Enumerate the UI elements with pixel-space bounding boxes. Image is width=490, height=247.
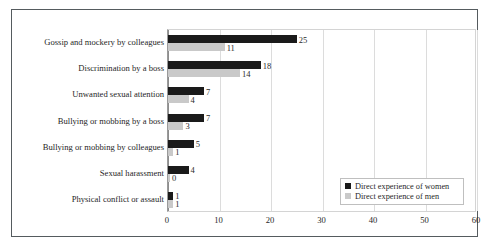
chart-legend: Direct experience of womenDirect experie… xyxy=(340,178,464,205)
x-tick-label: 30 xyxy=(317,215,326,225)
bar-value-label: 7 xyxy=(206,114,210,122)
bar xyxy=(168,43,225,51)
bar-value-label: 25 xyxy=(299,36,308,44)
bar xyxy=(168,148,173,156)
bar-value-label: 7 xyxy=(206,88,210,96)
x-tick-label: 10 xyxy=(214,215,223,225)
x-tick-label: 50 xyxy=(420,215,429,225)
bar-value-label: 5 xyxy=(196,140,200,148)
gridline xyxy=(220,30,221,211)
legend-label: Direct experience of men xyxy=(355,192,439,201)
gridline xyxy=(323,30,324,211)
x-tick-label: 20 xyxy=(266,215,275,225)
category-label: Physical conflict or assault xyxy=(16,194,164,204)
x-tick-label: 0 xyxy=(165,215,169,225)
bar xyxy=(168,87,204,95)
legend-swatch-icon xyxy=(345,183,351,189)
bar xyxy=(168,200,173,208)
bar xyxy=(168,35,297,43)
x-tick-label: 60 xyxy=(472,215,481,225)
legend-item[interactable]: Direct experience of men xyxy=(345,191,459,201)
x-axis-tick-labels: 0102030405060 xyxy=(167,215,476,231)
legend-label: Direct experience of women xyxy=(355,182,449,191)
bar xyxy=(168,69,240,77)
bar xyxy=(168,174,170,182)
bar xyxy=(168,192,173,200)
clipped-text-sliver xyxy=(0,0,490,4)
bar xyxy=(168,61,261,69)
bar-value-label: 4 xyxy=(191,166,195,174)
bar-value-label: 1 xyxy=(175,200,179,208)
bar xyxy=(168,122,183,130)
bar xyxy=(168,140,194,148)
bar-value-label: 1 xyxy=(175,148,179,156)
bar-value-label: 11 xyxy=(227,44,235,52)
bar-value-label: 18 xyxy=(263,62,272,70)
bar-value-label: 3 xyxy=(185,122,189,130)
gridline xyxy=(477,30,478,211)
category-label: Bullying or mobbing by a boss xyxy=(16,116,164,126)
category-label: Sexual harassment xyxy=(16,168,164,178)
bar-value-label: 4 xyxy=(191,96,195,104)
gridline xyxy=(271,30,272,211)
category-axis-labels: Gossip and mockery by colleaguesDiscrimi… xyxy=(14,29,164,212)
bar-value-label: 0 xyxy=(172,174,176,182)
category-label: Bullying or mobbing by colleagues xyxy=(16,142,164,152)
bar-value-label: 14 xyxy=(242,70,251,78)
category-label: Unwanted sexual attention xyxy=(16,89,164,99)
category-label: Discrimination by a boss xyxy=(16,63,164,73)
category-label: Gossip and mockery by colleagues xyxy=(16,37,164,47)
bar xyxy=(168,95,189,103)
x-tick-label: 40 xyxy=(369,215,378,225)
chart-figure: 251118147473514011 Gossip and mockery by… xyxy=(11,9,478,237)
legend-swatch-icon xyxy=(345,193,351,199)
legend-item[interactable]: Direct experience of women xyxy=(345,181,459,191)
